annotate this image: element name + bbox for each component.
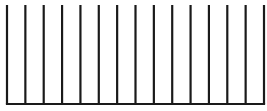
comb-diagram bbox=[0, 0, 267, 111]
vertical-lines-group bbox=[7, 5, 264, 104]
